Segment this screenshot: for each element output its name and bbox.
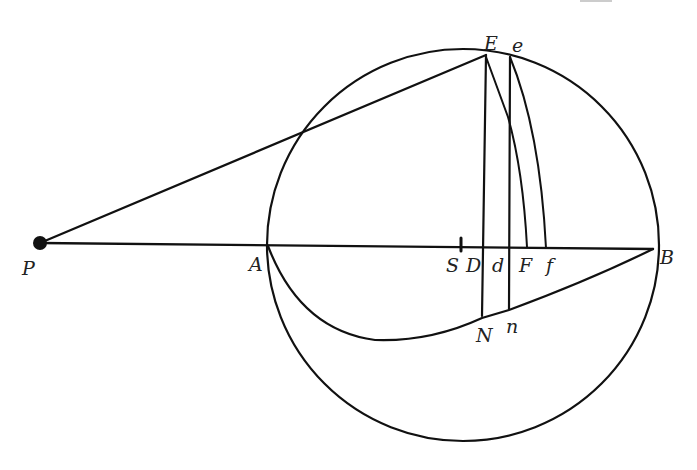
label-F: F [518, 254, 533, 276]
label-B: B [659, 246, 674, 268]
point-P-dot [33, 236, 47, 250]
scan-artifact [580, 0, 598, 2]
line-E-N [482, 55, 486, 316]
label-e: e [512, 34, 523, 56]
curve-A-N-B [268, 246, 653, 340]
label-A: A [247, 253, 263, 275]
label-n: n [506, 315, 518, 337]
geometry-diagram: P A S D d F f B E e N n [0, 0, 697, 470]
label-f: f [544, 254, 556, 276]
label-P: P [21, 257, 36, 279]
line-e-n [509, 57, 510, 309]
line-P-E [40, 55, 486, 243]
label-D: D [465, 254, 481, 276]
label-N: N [475, 324, 494, 346]
label-E: E [483, 32, 498, 54]
label-S: S [446, 254, 459, 276]
line-P-B [40, 243, 653, 249]
label-d: d [492, 254, 504, 276]
scan-artifact [598, 0, 612, 2]
